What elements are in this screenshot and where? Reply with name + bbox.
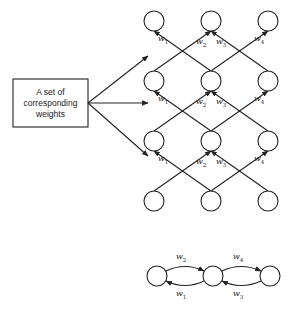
connections <box>154 31 268 191</box>
weight-label-w2: w2 <box>196 97 206 108</box>
weight-label-w2: w2 <box>196 37 206 48</box>
chain-label-w3: w3 <box>233 289 243 300</box>
node <box>201 191 221 211</box>
node <box>258 131 278 151</box>
weight-label-w1: w1 <box>158 94 168 105</box>
node <box>201 71 221 91</box>
node <box>201 131 221 151</box>
node <box>144 131 164 151</box>
node <box>258 11 278 31</box>
weights-box-label: A set of corresponding weights <box>13 79 88 127</box>
network-diagram <box>0 0 290 312</box>
chain <box>147 266 280 286</box>
node <box>258 191 278 211</box>
box-line-3: weights <box>36 109 65 120</box>
chain-label-w4: w4 <box>233 252 243 263</box>
weight-label-w4: w4 <box>254 94 264 105</box>
weight-label-w3: w3 <box>216 97 226 108</box>
chain-node <box>203 266 223 286</box>
chain-label-w2: w2 <box>176 252 186 263</box>
node <box>144 191 164 211</box>
node <box>144 71 164 91</box>
node <box>201 11 221 31</box>
weight-label-w2: w2 <box>196 157 206 168</box>
box-arrows <box>88 56 148 156</box>
weight-label-w1: w1 <box>158 154 168 165</box>
node <box>258 71 278 91</box>
box-line-2: corresponding <box>24 98 78 109</box>
chain-label-w1: w1 <box>176 289 186 300</box>
weight-label-w3: w3 <box>216 157 226 168</box>
chain-node <box>147 266 167 286</box>
weight-label-w1: w1 <box>158 34 168 45</box>
box-line-1: A set of <box>36 87 64 98</box>
weight-label-w4: w4 <box>254 154 264 165</box>
weight-label-w3: w3 <box>216 37 226 48</box>
chain-node <box>260 266 280 286</box>
node <box>144 11 164 31</box>
weight-label-w4: w4 <box>254 34 264 45</box>
